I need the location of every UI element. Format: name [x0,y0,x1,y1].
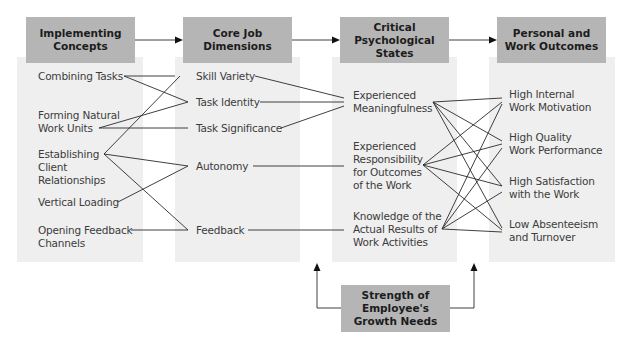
header-line: States [354,47,434,60]
item-combining-tasks: Combining Tasks [38,70,123,83]
item-experienced-meaningfulness: Experienced Meaningfulness [353,89,432,115]
header-growth-need-strength: Strength of Employee's Growth Needs [341,285,450,332]
item-establishing-client-relationships: Establishing Client Relationships [38,148,105,187]
header-line: Core Job [203,27,272,40]
header-line: Implementing [39,27,121,40]
item-forming-natural-work-units: Forming Natural Work Units [38,109,120,135]
item-high-internal-motivation: High Internal Work Motivation [509,88,591,114]
header-line: Concepts [39,40,121,53]
item-feedback: Feedback [196,224,244,237]
arrowhead-icon [175,37,183,44]
header-line: Growth Needs [354,315,438,328]
header-critical-psychological-states: Critical Psychological States [340,17,449,63]
item-task-significance: Task Significance [196,122,282,135]
header-core-job-dimensions: Core Job Dimensions [183,17,292,63]
arrowhead-up-icon [314,263,321,271]
header-implementing-concepts: Implementing Concepts [26,17,135,63]
header-line: Critical [354,21,434,34]
item-skill-variety: Skill Variety [196,70,255,83]
item-vertical-loading: Vertical Loading [38,196,119,209]
item-task-identity: Task Identity [196,96,260,109]
header-personal-work-outcomes: Personal and Work Outcomes [497,17,606,63]
item-knowledge-of-results: Knowledge of the Actual Results of Work … [353,210,442,249]
header-line: Personal and [505,27,598,40]
item-opening-feedback-channels: Opening Feedback Channels [38,224,132,250]
header-line: Strength of [354,289,438,302]
item-experienced-responsibility: Experienced Responsibility for Outcomes … [353,140,423,192]
arrowhead-icon [332,37,340,44]
arrowhead-icon [489,37,497,44]
item-autonomy: Autonomy [196,160,248,173]
item-low-absenteeism: Low Absenteeism and Turnover [509,218,598,244]
header-line: Work Outcomes [505,40,598,53]
item-high-quality-performance: High Quality Work Performance [509,131,602,157]
header-line: Dimensions [203,40,272,53]
arrowhead-up-icon [471,263,478,271]
item-high-satisfaction: High Satisfaction with the Work [509,175,595,201]
header-line: Psychological [354,34,434,47]
header-line: Employee's [354,302,438,315]
